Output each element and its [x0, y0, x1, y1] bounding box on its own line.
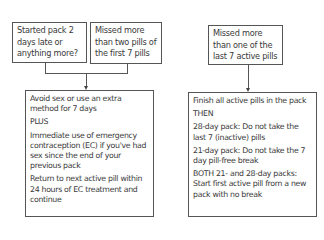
action-text: 21-day pack: Do not take the 7 day pill-…	[193, 146, 312, 166]
connector-line	[86, 73, 87, 86]
condition-text: Missed more than one of the last 7 activ…	[213, 28, 277, 61]
action-text: Finish all active pills in the pack	[193, 96, 312, 106]
action-label-then: THEN	[193, 109, 312, 119]
action-box-right: Finish all active pills in the pack THEN…	[188, 92, 317, 217]
condition-box-missed-last-seven: Missed more than one of the last 7 activ…	[208, 25, 283, 65]
action-label-plus: PLUS	[30, 117, 149, 127]
action-text: 28-day pack: Do not take the last 7 (ina…	[193, 122, 312, 142]
action-text: Return to next active pill within 24 hou…	[30, 174, 149, 205]
action-text: Avoid sex or use an extra method for 7 d…	[30, 94, 149, 114]
condition-text: Started pack 2 days late or anything mor…	[17, 25, 78, 58]
condition-box-started-late: Started pack 2 days late or anything mor…	[12, 22, 87, 63]
condition-text: Missed more than two pills of the first …	[95, 25, 156, 58]
action-text: BOTH 21- and 28-day packs: Start first a…	[193, 169, 312, 200]
action-box-left: Avoid sex or use an extra method for 7 d…	[25, 90, 154, 217]
condition-box-missed-first-seven: Missed more than two pills of the first …	[90, 22, 162, 64]
connector-line	[248, 65, 249, 88]
connector-line	[127, 64, 128, 73]
action-text: Immediate use of emergency contraception…	[30, 131, 149, 172]
connector-line	[45, 63, 46, 73]
